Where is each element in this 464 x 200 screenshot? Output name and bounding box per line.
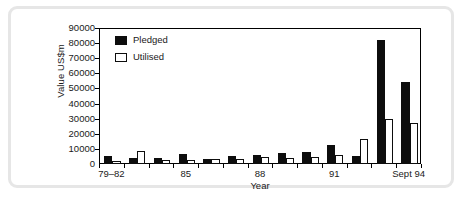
y-axis-tick-label: 50000 [47,84,95,94]
legend-swatch-utilised-icon [115,53,127,62]
y-axis-tick-label: 40000 [47,99,95,109]
chart-card: Value US$m 01000020000300004000050000600… [8,6,454,188]
bar-utilised [236,159,244,164]
x-axis-tick-mark [297,164,298,168]
bar-pledged [228,156,236,164]
bar-pledged [377,40,385,164]
bar-pledged [352,156,360,164]
y-axis-tick-label: 20000 [47,129,95,139]
bar-pledged [327,145,335,164]
x-axis-tick-mark [248,164,249,168]
y-axis-tick-labels: 0100002000030000400005000060000700008000… [45,9,95,191]
bar-utilised [187,160,195,164]
x-axis-tick-label: Sept 94 [392,169,425,179]
legend-item: Utilised [115,50,168,64]
bar-pledged [278,153,286,164]
x-axis-tick-mark [223,164,224,168]
bar-utilised [162,160,170,164]
x-axis-tick-mark [347,164,348,168]
bar-utilised [311,157,319,164]
x-axis-tick-label: 88 [255,169,266,179]
legend-item-label: Utilised [133,52,164,62]
bar-utilised [112,161,120,164]
x-axis-title: Year [99,180,421,191]
bar-pledged [253,155,261,164]
y-axis-tick-label: 0 [47,159,95,169]
y-axis-tick-label: 70000 [47,53,95,63]
bar-pledged [302,152,310,164]
bar-utilised [410,123,418,164]
legend-item-label: Pledged [133,35,168,45]
x-axis-tick-mark [149,164,150,168]
bar-utilised [385,119,393,164]
legend-swatch-pledged-icon [115,36,127,45]
bar-utilised [261,157,269,164]
bar-pledged [104,156,112,164]
x-axis-tick-label: 79–82 [98,169,124,179]
y-axis-tick-label: 90000 [47,23,95,33]
x-axis-tick-mark [272,164,273,168]
bar-pledged [154,158,162,164]
y-axis-tick-label: 30000 [47,114,95,124]
x-axis-tick-mark [322,164,323,168]
y-axis-tick-label: 60000 [47,69,95,79]
x-axis-tick-mark [173,164,174,168]
x-axis-tick-label: 85 [180,169,191,179]
y-axis-tick-label: 80000 [47,38,95,48]
bar-utilised [286,158,294,164]
bar-pledged [203,159,211,164]
bar-utilised [335,155,343,164]
x-axis-tick-label: 91 [329,169,340,179]
bar-pledged [179,154,187,164]
bar-utilised [211,159,219,164]
x-axis-tick-mark [371,164,372,168]
x-axis-tick-mark [198,164,199,168]
bar-utilised [137,151,145,164]
bar-utilised [360,139,368,164]
chart-legend: PledgedUtilised [115,33,168,67]
legend-item: Pledged [115,33,168,47]
y-axis-tick-label: 10000 [47,144,95,154]
bar-pledged [129,158,137,164]
bar-pledged [401,82,409,164]
chart-plot-wrapper: Value US$m 01000020000300004000050000600… [11,9,457,191]
